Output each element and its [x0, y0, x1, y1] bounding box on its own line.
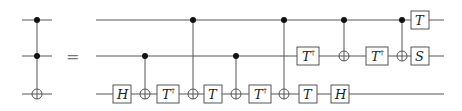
control-dot — [233, 53, 239, 59]
gate-t-dagger: T† — [366, 47, 388, 65]
control-dot — [34, 53, 40, 59]
svg-text:T: T — [208, 87, 218, 102]
gate-t-dagger: T† — [297, 47, 319, 65]
target-oplus — [188, 89, 198, 99]
gate-h: H — [331, 85, 349, 103]
cnot-gate — [279, 17, 289, 99]
decomposed-circuit: HT†TT†T†THT†TS — [96, 11, 444, 103]
gate-s: S — [411, 47, 429, 65]
cnot-gate — [231, 53, 241, 99]
target-oplus — [32, 89, 42, 99]
cnot-gate — [188, 17, 198, 99]
equals-sign: = — [66, 47, 79, 66]
target-oplus — [140, 89, 150, 99]
svg-text:†: † — [263, 86, 267, 95]
svg-text:S: S — [415, 49, 424, 64]
control-dot — [281, 17, 287, 23]
cnot-gate — [140, 53, 150, 99]
svg-text:H: H — [116, 87, 129, 102]
target-oplus — [279, 89, 289, 99]
control-dot — [142, 53, 148, 59]
control-dot — [190, 17, 196, 23]
gate-t: T — [411, 11, 429, 29]
circuit-diagram: = HT†TT†T†THT†TS — [0, 0, 462, 111]
svg-text:†: † — [380, 48, 384, 57]
gate-t: T — [204, 85, 222, 103]
control-dot — [341, 17, 347, 23]
gate-h: H — [113, 85, 131, 103]
target-oplus — [231, 89, 241, 99]
target-oplus — [339, 51, 349, 61]
gate-t: T — [299, 85, 317, 103]
svg-text:†: † — [171, 86, 175, 95]
svg-text:H: H — [334, 87, 347, 102]
svg-text:T: T — [303, 87, 313, 102]
toffoli-gate — [22, 17, 52, 99]
svg-text:T: T — [415, 13, 425, 28]
gate-t-dagger: T† — [249, 85, 271, 103]
cnot-gate — [397, 17, 407, 61]
gate-t-dagger: T† — [157, 85, 179, 103]
control-dot — [399, 17, 405, 23]
cnot-gate — [339, 17, 349, 61]
control-dot — [34, 17, 40, 23]
target-oplus — [397, 51, 407, 61]
svg-text:†: † — [311, 48, 315, 57]
